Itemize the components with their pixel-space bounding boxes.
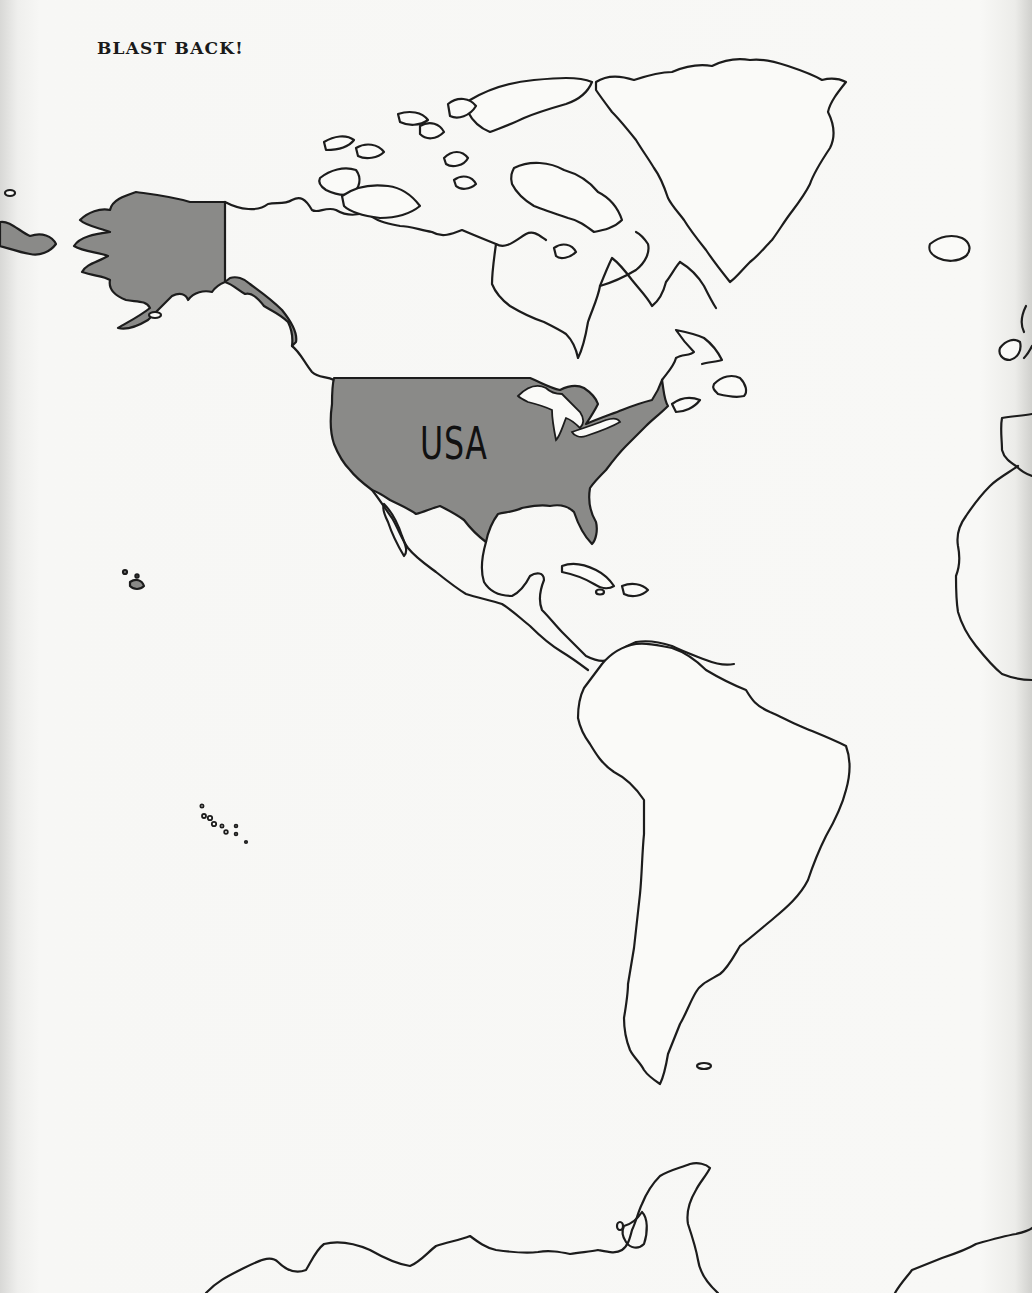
arctic-island-3 — [398, 112, 428, 125]
hawaii-islands — [130, 580, 144, 589]
antarctica-east-coast — [895, 1228, 1032, 1293]
southampton-island — [554, 245, 576, 259]
falkland-islands — [697, 1063, 711, 1069]
baffin-island — [511, 163, 622, 232]
nova-scotia — [672, 398, 700, 412]
arctic-island-victoria — [342, 185, 420, 218]
canada-east — [662, 330, 722, 380]
labrador-coast — [600, 232, 716, 308]
arctic-island-6 — [454, 177, 476, 189]
ireland — [999, 340, 1020, 360]
usa-label: USA — [420, 418, 488, 469]
arctic-island-5 — [444, 152, 468, 166]
greenland — [596, 59, 846, 282]
alaska-shape — [74, 192, 296, 346]
hawaii-islet-1 — [123, 570, 127, 574]
americas-map — [0, 0, 1032, 1293]
south-america — [578, 643, 850, 1084]
kodiak-island — [149, 312, 161, 318]
ellesmere-island — [468, 78, 592, 132]
arctic-island-1 — [324, 136, 354, 150]
small-island — [5, 190, 15, 196]
arctic-island-4 — [420, 123, 444, 138]
newfoundland — [713, 376, 746, 397]
hawaii-islet-2 — [135, 574, 138, 577]
antarctic-peninsula-inner — [623, 1212, 647, 1248]
chukotka-region — [0, 222, 56, 255]
usa-contiguous-shape — [331, 378, 668, 544]
gulf-of-mexico-coast — [482, 542, 608, 661]
hudson-bay — [492, 244, 680, 358]
hispaniola — [622, 584, 648, 596]
jamaica — [596, 590, 604, 595]
africa-west-coast — [956, 414, 1032, 680]
britain-edge — [1022, 306, 1032, 358]
cuba — [562, 564, 614, 588]
antarctica-coast — [206, 1163, 718, 1293]
antarctic-islet — [617, 1222, 623, 1230]
pacific-islands — [200, 804, 247, 843]
west-coast — [292, 346, 334, 380]
arctic-island-2 — [356, 145, 384, 159]
iceland — [929, 236, 969, 261]
